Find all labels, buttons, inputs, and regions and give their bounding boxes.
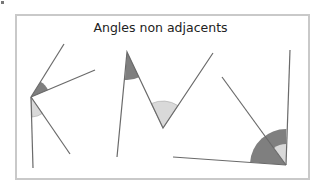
- light-angle-2: [151, 101, 178, 128]
- figure-3: [173, 50, 290, 165]
- angles-diagram: [0, 0, 321, 185]
- figure-2: [117, 52, 213, 157]
- figure-1: [31, 44, 95, 168]
